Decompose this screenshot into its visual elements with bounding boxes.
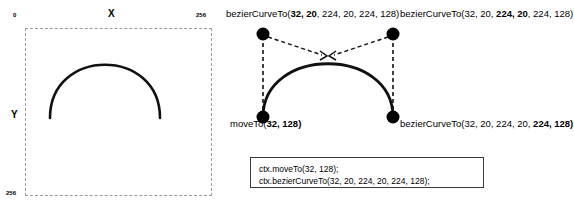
rendered-bezier-curve (0, 0, 225, 211)
start-point-label: moveTo(32, 128) (230, 119, 301, 129)
cp1-prefix: bezierCurveTo( (226, 8, 290, 19)
diagram-bezier-path (263, 64, 393, 117)
control-point-2-dot (387, 28, 400, 41)
cp2-prefix: bezierCurveTo(32, 20, (400, 8, 496, 19)
code-snippet-box: ctx.moveTo(32, 128); ctx.bezierCurveTo(3… (250, 157, 484, 188)
end-bold: 224, 128) (533, 118, 573, 129)
cp2-bold: 224, 20 (496, 8, 528, 19)
end-point-dot (387, 111, 400, 124)
arrowhead-right-icon (329, 51, 336, 60)
cp1-bold: 32, 20 (290, 8, 316, 19)
arrowhead-left-icon (320, 51, 327, 60)
end-point-label: bezierCurveTo(32, 20, 224, 20, 224, 128) (400, 119, 573, 129)
start-point-dot (257, 111, 270, 124)
start-bold: 32, 128) (266, 118, 301, 129)
control-point-2-label: bezierCurveTo(32, 20, 224, 20, 224, 128) (400, 9, 573, 19)
guide-arrow-left (268, 37, 322, 55)
code-line-moveto: ctx.moveTo(32, 128); (259, 163, 483, 175)
bezier-curve-illustration: 0 X 256 Y 256 (0, 0, 574, 211)
cp2-suffix: , 224, 128) (528, 8, 573, 19)
end-prefix: bezierCurveTo(32, 20, 224, 20, (400, 118, 533, 129)
guide-arrow-right (334, 37, 388, 55)
cp1-suffix: , 224, 20, 224, 128) (317, 8, 399, 19)
control-point-1-label: bezierCurveTo(32, 20, 224, 20, 224, 128) (226, 9, 399, 19)
control-point-1-dot (257, 28, 270, 41)
canvas-coordinate-panel: 0 X 256 Y 256 (0, 0, 225, 211)
bezier-path (50, 65, 160, 118)
code-line-beziercurveto: ctx.bezierCurveTo(32, 20, 224, 20, 224, … (259, 175, 483, 187)
start-prefix: moveTo( (230, 118, 266, 129)
